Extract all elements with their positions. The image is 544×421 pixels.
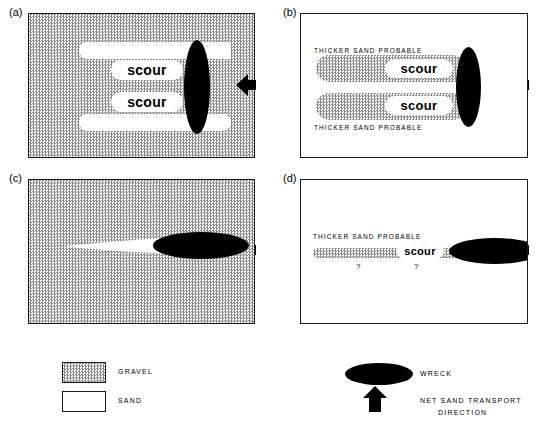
- legend-label-wreck: WRECK: [420, 370, 452, 377]
- legend-swatch-gravel: [62, 362, 106, 383]
- scour-label-a-2: scour: [111, 92, 183, 112]
- query-mark-d-1: ?: [356, 262, 360, 271]
- legend-symbol-wreck: [345, 363, 413, 385]
- panel-c: [28, 179, 255, 324]
- legend-swatch-sand: [62, 391, 106, 412]
- legend-label-gravel: GRAVEL: [118, 368, 153, 375]
- scour-label-a-1: scour: [111, 60, 183, 80]
- scour-label-b-2: scour: [385, 96, 453, 115]
- panel-d: THICKER SAND PROBABLE scour ? ?: [300, 179, 528, 324]
- wreck-a: [184, 40, 210, 134]
- wreck-c: [153, 232, 249, 259]
- wreck-b: [456, 47, 481, 127]
- figure-root: (a) scour scour: [0, 0, 544, 421]
- scour-label-b-1: scour: [385, 59, 453, 78]
- legend-label-transport-line1: NET SAND TRANSPORT: [420, 397, 522, 404]
- legend-symbol-transport-arrow: [363, 386, 387, 412]
- thicker-sand-label-d: THICKER SAND PROBABLE: [313, 233, 421, 240]
- query-mark-d-2: ?: [414, 262, 418, 271]
- panel-label-b: (b): [283, 6, 296, 18]
- panel-label-a: (a): [9, 6, 22, 18]
- panel-b: scour scour THICKER SAND PROBABLE THICKE…: [300, 13, 528, 158]
- legend-label-sand: SAND: [118, 397, 142, 404]
- thicker-sand-label-b-upper: THICKER SAND PROBABLE: [314, 47, 422, 54]
- scour-label-d: scour: [396, 244, 444, 258]
- thicker-sand-label-b-lower: THICKER SAND PROBABLE: [314, 124, 422, 131]
- wreck-d: [449, 238, 528, 264]
- panel-label-d: (d): [283, 172, 296, 184]
- panel-label-c: (c): [9, 172, 22, 184]
- panel-a: scour scour: [28, 13, 255, 158]
- legend-label-transport-line2: DIRECTION: [438, 409, 487, 416]
